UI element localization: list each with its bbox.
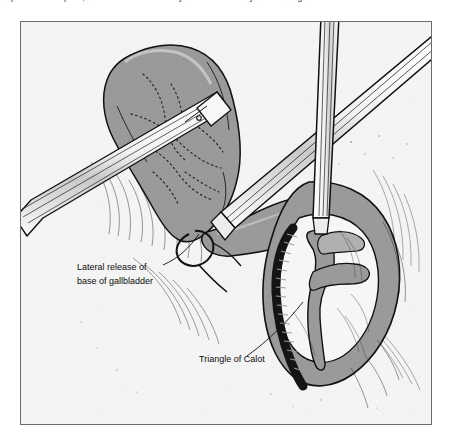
illustration-frame: Lateral release of base of gallbladder T… — [20, 21, 432, 425]
annotation-lateral-release: Lateral release of base of gallbladder — [77, 261, 153, 288]
annotation-lateral-release-line1: Lateral release of — [77, 261, 153, 275]
caption-text: exposure is adequate, confirm and contro… — [0, 0, 450, 3]
cystic-duct-upper-branch — [318, 232, 365, 254]
annotation-lateral-release-line2: base of gallbladder — [77, 275, 153, 289]
retractor-tip — [313, 218, 329, 234]
annotation-triangle-calot: Triangle of Calot — [199, 353, 265, 367]
annotation-triangle-calot-line1: Triangle of Calot — [199, 353, 265, 367]
caption-strip: exposure is adequate, confirm and contro… — [0, 0, 450, 5]
grasper-pivot — [197, 116, 202, 121]
